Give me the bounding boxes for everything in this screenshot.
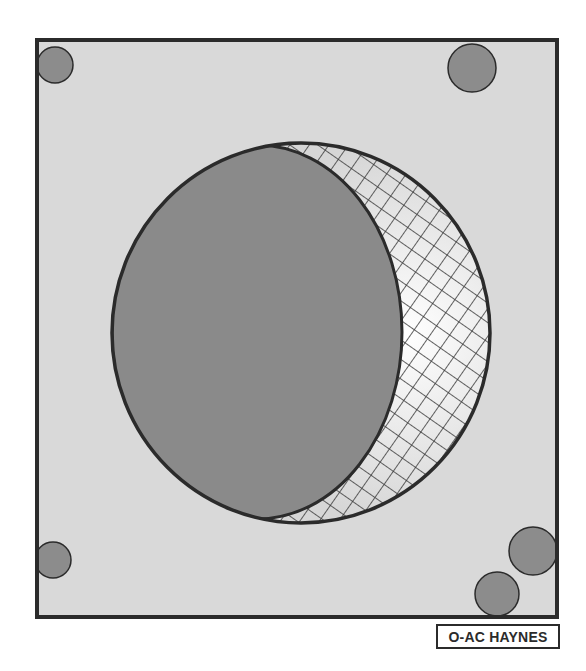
corner-circle-bottom-left [35,542,71,578]
corner-circle-bottom-right-upper [509,527,557,575]
corner-circle-top-right [448,44,496,92]
corner-circle-bottom-right-lower [475,572,519,616]
source-label: O-AC HAYNES [436,624,560,649]
corner-circle-top-left [37,47,73,83]
diagram-canvas [0,0,586,671]
source-label-text: O-AC HAYNES [449,629,548,645]
